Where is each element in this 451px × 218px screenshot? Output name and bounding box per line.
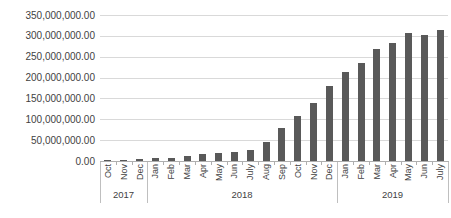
category-tick <box>385 162 386 165</box>
bar-Jan-15 <box>342 72 349 161</box>
y-axis-tick-label: 350,000,000.00 <box>5 10 95 21</box>
bar-Apr-6 <box>199 154 206 161</box>
category-tick <box>242 162 243 165</box>
month-label: Jan <box>339 164 351 190</box>
category-tick <box>179 162 180 165</box>
bar-July-21 <box>437 30 444 161</box>
month-label: Oct <box>102 164 114 190</box>
month-label: Dec <box>134 164 146 190</box>
bar-Oct-0 <box>104 160 111 161</box>
year-label: 2019 <box>337 189 448 201</box>
category-tick <box>211 162 212 165</box>
month-label: Jun <box>228 164 240 190</box>
month-label: Nov <box>308 164 320 190</box>
bar-May-19 <box>405 33 412 161</box>
bar-May-7 <box>215 153 222 161</box>
bar-Feb-16 <box>358 63 365 161</box>
month-label: Feb <box>355 164 367 190</box>
month-label: Aug <box>260 164 272 190</box>
month-label: Jun <box>418 164 430 190</box>
category-tick <box>353 162 354 165</box>
category-tick <box>132 162 133 165</box>
bar-Feb-4 <box>168 158 175 161</box>
y-axis-tick-label: 50,000,000.00 <box>5 135 95 146</box>
month-label: Mar <box>371 164 383 190</box>
category-tick <box>290 162 291 165</box>
y-axis-tick-label: 250,000,000.00 <box>5 51 95 62</box>
category-tick <box>306 162 307 165</box>
y-axis-tick-label: 300,000,000.00 <box>5 30 95 41</box>
year-label: 2017 <box>100 189 147 201</box>
bar-Apr-18 <box>389 43 396 161</box>
category-tick <box>116 162 117 165</box>
category-tick <box>432 162 433 165</box>
y-axis-tick-label: 100,000,000.00 <box>5 114 95 125</box>
month-label: July <box>244 164 256 190</box>
bar-Dec-2 <box>136 159 143 161</box>
y-axis-tick-label: 200,000,000.00 <box>5 72 95 83</box>
bar-Nov-1 <box>120 160 127 161</box>
month-label: Feb <box>165 164 177 190</box>
category-tick <box>416 162 417 165</box>
bar-Jun-8 <box>231 152 238 161</box>
y-axis-tick-label: 0.00 <box>5 156 95 167</box>
year-label: 2018 <box>147 189 337 201</box>
month-label: Apr <box>387 164 399 190</box>
y-axis-tick-label: 150,000,000.00 <box>5 93 95 104</box>
bar-Jun-20 <box>421 35 428 161</box>
bar-July-9 <box>247 150 254 161</box>
bar-Oct-12 <box>294 116 301 161</box>
bar-Mar-17 <box>373 49 380 161</box>
bar-Jan-3 <box>152 158 159 161</box>
year-group-separator <box>448 162 449 203</box>
bar-Nov-13 <box>310 103 317 161</box>
category-tick <box>258 162 259 165</box>
month-label: Jan <box>149 164 161 190</box>
gridline <box>100 15 448 16</box>
month-label: Nov <box>118 164 130 190</box>
gridline <box>100 36 448 37</box>
bar-Aug-10 <box>263 142 270 161</box>
month-label: Apr <box>197 164 209 190</box>
bar-Dec-14 <box>326 86 333 161</box>
bar-Sep-11 <box>278 128 285 161</box>
category-tick <box>195 162 196 165</box>
month-label: July <box>434 164 446 190</box>
month-label: Mar <box>181 164 193 190</box>
bar-chart: 350,000,000.00300,000,000.00250,000,000.… <box>0 0 451 218</box>
category-tick <box>274 162 275 165</box>
month-label: Sep <box>276 164 288 190</box>
category-tick <box>369 162 370 165</box>
month-label: Oct <box>292 164 304 190</box>
month-label: Dec <box>323 164 335 190</box>
month-label: May <box>402 164 414 190</box>
month-label: May <box>213 164 225 190</box>
bar-Mar-5 <box>184 156 191 161</box>
category-tick <box>321 162 322 165</box>
category-tick <box>163 162 164 165</box>
